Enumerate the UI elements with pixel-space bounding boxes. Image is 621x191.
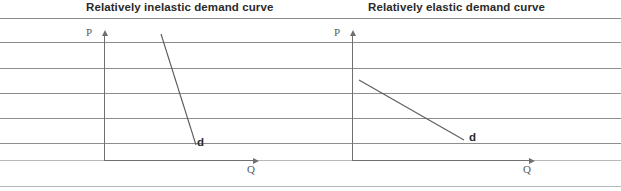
- worksheet-page: Relatively inelastic demand curve Relati…: [0, 0, 621, 191]
- diagram-elastic: P Q d: [248, 0, 548, 191]
- demand-curve-elastic: [248, 0, 548, 191]
- demand-curve-label: d: [469, 131, 476, 143]
- demand-curve-label: d: [197, 136, 204, 148]
